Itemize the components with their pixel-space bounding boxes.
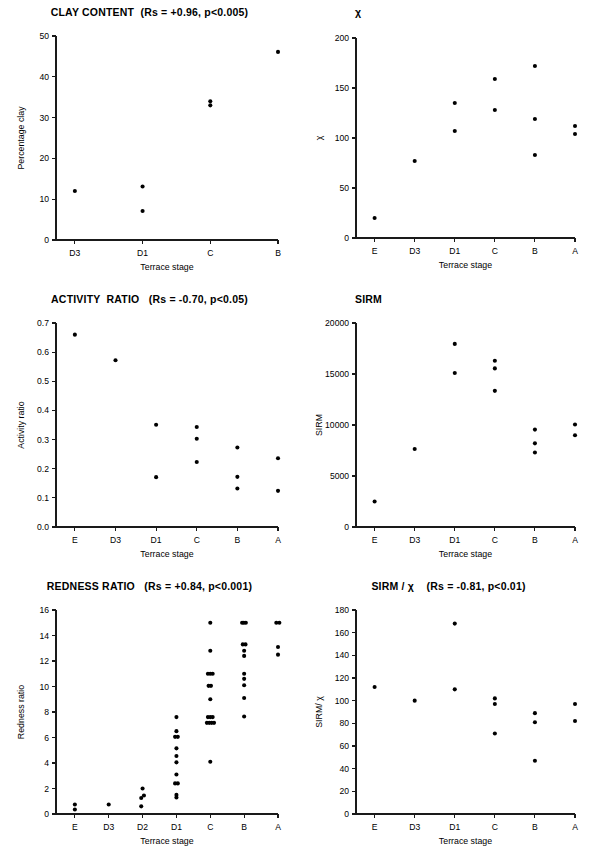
x-tick-label: B bbox=[235, 535, 241, 545]
x-tick-label: D3 bbox=[110, 535, 121, 545]
data-point bbox=[209, 684, 213, 688]
data-point bbox=[176, 781, 180, 785]
data-point bbox=[73, 333, 77, 337]
data-point bbox=[208, 621, 212, 625]
data-point bbox=[242, 696, 246, 700]
data-point bbox=[208, 99, 212, 103]
x-axis-label: Terrace stage bbox=[439, 836, 492, 846]
x-tick-label: D1 bbox=[151, 535, 162, 545]
x-tick-label: C bbox=[207, 822, 213, 832]
data-point bbox=[533, 450, 537, 454]
y-tick-label: 0.0 bbox=[37, 522, 49, 532]
data-point bbox=[533, 720, 537, 724]
data-point bbox=[141, 185, 145, 189]
y-tick-label: 60 bbox=[339, 741, 349, 751]
y-tick-label: 0 bbox=[344, 233, 349, 243]
data-point bbox=[573, 132, 577, 136]
x-tick-label: D1 bbox=[449, 246, 460, 256]
y-tick-label: 40 bbox=[39, 72, 49, 82]
data-point bbox=[453, 687, 457, 691]
data-point bbox=[493, 731, 497, 735]
x-tick-label: C bbox=[492, 822, 498, 832]
data-point bbox=[276, 645, 280, 649]
data-point bbox=[208, 697, 212, 701]
scatter-plot-redness-ratio: 0246810121416ED3D2D1CBATerrace stageRedn… bbox=[0, 574, 299, 861]
scatter-plot-clay-content: 01020304050D3D1CBTerrace stagePercentage… bbox=[0, 0, 299, 287]
y-tick-label: 40 bbox=[339, 764, 349, 774]
x-axis-label: Terrace stage bbox=[140, 549, 193, 559]
data-point bbox=[533, 428, 537, 432]
x-tick-label: D3 bbox=[409, 822, 420, 832]
x-tick-label: B bbox=[532, 535, 538, 545]
data-point bbox=[276, 50, 280, 54]
y-tick-label: 0.5 bbox=[37, 376, 49, 386]
data-point bbox=[453, 371, 457, 375]
x-tick-label: D2 bbox=[137, 822, 148, 832]
data-point bbox=[154, 423, 158, 427]
data-point bbox=[277, 621, 281, 625]
data-point bbox=[139, 796, 143, 800]
data-point bbox=[533, 759, 537, 763]
scatter-plot-activity-ratio: 0.00.10.20.30.40.50.60.7ED3D1CBATerrace … bbox=[0, 287, 299, 574]
data-point bbox=[453, 622, 457, 626]
y-axis-label: χ bbox=[314, 135, 324, 140]
data-point bbox=[533, 117, 537, 121]
x-tick-label: D3 bbox=[409, 535, 420, 545]
data-point bbox=[573, 422, 577, 426]
data-point bbox=[453, 101, 457, 105]
y-tick-label: 15000 bbox=[325, 369, 349, 379]
data-point bbox=[235, 445, 239, 449]
x-tick-label: C bbox=[492, 246, 498, 256]
scatter-plot-chi: 050100150200ED3D1CBATerrace stageχ bbox=[299, 0, 598, 287]
y-tick-label: 5000 bbox=[330, 471, 349, 481]
y-tick-label: 6 bbox=[44, 733, 49, 743]
x-tick-label: E bbox=[72, 535, 78, 545]
x-axis-label: Terrace stage bbox=[140, 836, 193, 846]
data-point bbox=[493, 366, 497, 370]
data-point bbox=[73, 189, 77, 193]
y-tick-label: 10 bbox=[39, 194, 49, 204]
data-point bbox=[174, 772, 178, 776]
data-point bbox=[242, 672, 246, 676]
panel-clay-content: CLAY CONTENT (Rs = +0.96, p<0.005)010203… bbox=[0, 0, 299, 287]
x-tick-label: B bbox=[275, 248, 281, 258]
y-tick-label: 8 bbox=[44, 707, 49, 717]
data-point bbox=[243, 642, 247, 646]
x-tick-label: D1 bbox=[449, 822, 460, 832]
data-point bbox=[242, 677, 246, 681]
y-tick-label: 10000 bbox=[325, 420, 349, 430]
y-tick-label: 14 bbox=[39, 631, 49, 641]
x-tick-label: A bbox=[572, 535, 578, 545]
data-point bbox=[493, 696, 497, 700]
y-tick-label: 0.7 bbox=[37, 318, 49, 328]
data-point bbox=[73, 807, 77, 811]
data-point bbox=[276, 489, 280, 493]
data-point bbox=[573, 719, 577, 723]
data-point bbox=[276, 653, 280, 657]
y-axis-label: SIRM bbox=[314, 414, 324, 436]
panel-sirm-over-chi: SIRM / χ (Rs = -0.81, p<0.01)02040608010… bbox=[299, 574, 598, 861]
data-point bbox=[176, 735, 180, 739]
y-tick-label: 20 bbox=[339, 786, 349, 796]
data-point bbox=[493, 108, 497, 112]
y-tick-label: 0 bbox=[344, 809, 349, 819]
y-tick-label: 0.6 bbox=[37, 347, 49, 357]
y-tick-label: 100 bbox=[335, 696, 350, 706]
data-point bbox=[139, 804, 143, 808]
data-point bbox=[211, 672, 215, 676]
x-axis-label: Terrace stage bbox=[140, 262, 193, 272]
data-point bbox=[107, 802, 111, 806]
y-tick-label: 0 bbox=[44, 809, 49, 819]
scatter-plot-sirm-over-chi: 020406080100120140160180ED3D1CBATerrace … bbox=[299, 574, 598, 861]
y-tick-label: 12 bbox=[39, 656, 49, 666]
x-tick-label: A bbox=[572, 246, 578, 256]
x-tick-label: A bbox=[275, 535, 281, 545]
data-point bbox=[373, 216, 377, 220]
data-point bbox=[493, 389, 497, 393]
data-point bbox=[533, 153, 537, 157]
scatter-plot-sirm: 05000100001500020000ED3D1CBATerrace stag… bbox=[299, 287, 598, 574]
y-tick-label: 160 bbox=[335, 628, 350, 638]
data-point bbox=[235, 486, 239, 490]
y-tick-label: 140 bbox=[335, 650, 350, 660]
x-tick-label: C bbox=[194, 535, 200, 545]
